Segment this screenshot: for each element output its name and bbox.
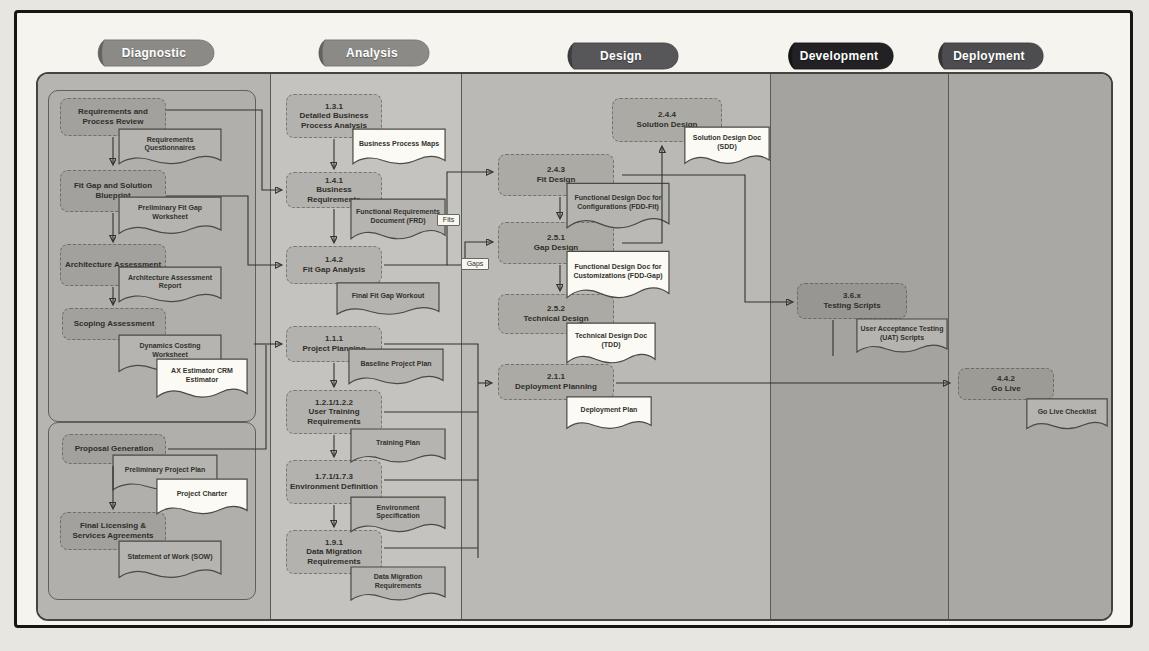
- node-label: Scoping Assessment: [74, 319, 155, 329]
- node-label: Go Live: [991, 384, 1020, 394]
- phase-label: Analysis: [313, 39, 431, 67]
- node-label: Deployment Planning: [515, 382, 597, 392]
- node-testing-scripts: 3.6.x Testing Scripts: [797, 283, 907, 319]
- node-code: 1.4.2: [325, 255, 343, 265]
- doc-final-fit-gap: Final Fit Gap Workout: [336, 282, 440, 320]
- sure-step-waterfall-diagram: Diagnostic Analysis Design Development D…: [0, 0, 1149, 651]
- doc-go-live-checklist: Go Live Checklist: [1026, 398, 1108, 434]
- phase-banner-development: Development: [783, 42, 895, 70]
- doc-requirements-questionnaires: Requirements Questionnaires: [118, 128, 222, 170]
- node-code: 1.3.1: [325, 102, 343, 112]
- gaps-label: Gaps: [461, 258, 489, 270]
- node-code: 1.7.1/1.7.3: [315, 472, 353, 482]
- node-label: Testing Scripts: [823, 301, 880, 311]
- doc-training-plan: Training Plan: [350, 428, 446, 468]
- doc-business-process-maps: Business Process Maps: [352, 128, 446, 170]
- doc-architecture-assessment-report: Architecture Assessment Report: [118, 266, 222, 308]
- phase-banner-design: Design: [562, 42, 680, 70]
- node-label: Final Licensing & Services Agreements: [64, 521, 162, 540]
- doc-solution-design-doc: Solution Design Doc (SDD): [684, 126, 770, 170]
- node-label: Fit Gap Analysis: [303, 265, 365, 275]
- node-code: 1.2.1/1.2.2: [315, 398, 353, 408]
- node-label: Requirements and Process Review: [64, 107, 162, 126]
- doc-statement-of-work: Statement of Work (SOW): [118, 540, 222, 584]
- node-code: 3.6.x: [843, 291, 861, 301]
- node-label: User Training Requirements: [290, 407, 378, 426]
- phase-label: Design: [562, 42, 680, 70]
- phase-banner-diagnostic: Diagnostic: [92, 39, 216, 67]
- doc-preliminary-fit-gap-worksheet: Preliminary Fit Gap Worksheet: [118, 196, 222, 240]
- doc-baseline-project-plan: Baseline Project Plan: [348, 348, 444, 390]
- node-code: 1.4.1: [325, 176, 343, 186]
- lane-deployment: [949, 74, 1111, 619]
- node-code: 2.4.3: [547, 165, 565, 175]
- doc-technical-design-doc: Technical Design Doc (TDD): [566, 322, 656, 370]
- node-code: 4.4.2: [997, 374, 1015, 384]
- phase-banner-analysis: Analysis: [313, 39, 431, 67]
- doc-project-charter: Project Charter: [156, 478, 248, 520]
- node-code: 2.5.1: [547, 233, 565, 243]
- phase-label: Deployment: [933, 42, 1045, 70]
- phase-label: Diagnostic: [92, 39, 216, 67]
- node-label: Data Migration Requirements: [290, 547, 378, 566]
- fits-label: Fits: [437, 214, 460, 226]
- doc-fdd-fit: Functional Design Doc for Configurations…: [566, 182, 670, 236]
- node-code: 2.1.1: [547, 372, 565, 382]
- node-code: 2.4.4: [658, 110, 676, 120]
- node-label: Proposal Generation: [75, 444, 154, 454]
- doc-uat-scripts: User Acceptance Testing (UAT) Scripts: [856, 318, 948, 358]
- doc-data-migration-requirements: Data Migration Requirements: [350, 566, 446, 606]
- doc-ax-crm-estimator: AX Estimator CRM Estimator: [156, 358, 248, 404]
- node-fit-gap-analysis: 1.4.2 Fit Gap Analysis: [286, 246, 382, 284]
- doc-fdd-gap: Functional Design Doc for Customizations…: [566, 250, 670, 306]
- node-code: 1.9.1: [325, 538, 343, 548]
- node-code: 1.1.1: [325, 334, 343, 344]
- phase-label: Development: [783, 42, 895, 70]
- doc-environment-specification: Environment Specification: [350, 496, 446, 538]
- phase-banner-deployment: Deployment: [933, 42, 1045, 70]
- doc-functional-requirements-document: Functional Requirements Document (FRD): [350, 198, 446, 246]
- node-code: 2.5.2: [547, 304, 565, 314]
- doc-deployment-plan: Deployment Plan: [566, 396, 652, 434]
- node-label: Environment Definition: [290, 482, 378, 492]
- node-go-live: 4.4.2 Go Live: [958, 368, 1054, 400]
